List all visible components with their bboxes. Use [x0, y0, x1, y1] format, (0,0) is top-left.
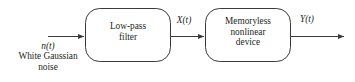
- block-label-memoryless-nonlinear-device: Memoryless nonlinear device: [206, 16, 290, 48]
- block-diagram: Low-pass filter Memoryless nonlinear dev…: [0, 0, 355, 82]
- input-signal-description-line: noise: [6, 62, 90, 72]
- block-label-line: Memoryless: [206, 16, 290, 27]
- output-signal-symbol: Y(t): [286, 14, 328, 24]
- intermediate-signal-label: X(t): [163, 15, 205, 25]
- intermediate-signal-symbol: X(t): [163, 15, 205, 25]
- input-signal-symbol-argument: (t): [46, 41, 55, 51]
- block-label-line: device: [206, 37, 290, 48]
- output-signal-label: Y(t): [286, 14, 328, 24]
- block-label-line: filter: [86, 32, 170, 43]
- block-label-line: Low-pass: [86, 21, 170, 32]
- intermediate-signal-symbol-argument: (t): [182, 15, 191, 25]
- block-label-line: nonlinear: [206, 27, 290, 38]
- input-signal-description-line: White Gaussian: [6, 51, 90, 61]
- input-signal-label: n(t) White Gaussian noise: [6, 41, 90, 72]
- input-signal-symbol: n(t): [6, 41, 90, 51]
- output-signal-symbol-argument: (t): [305, 14, 314, 24]
- block-label-low-pass-filter: Low-pass filter: [86, 21, 170, 42]
